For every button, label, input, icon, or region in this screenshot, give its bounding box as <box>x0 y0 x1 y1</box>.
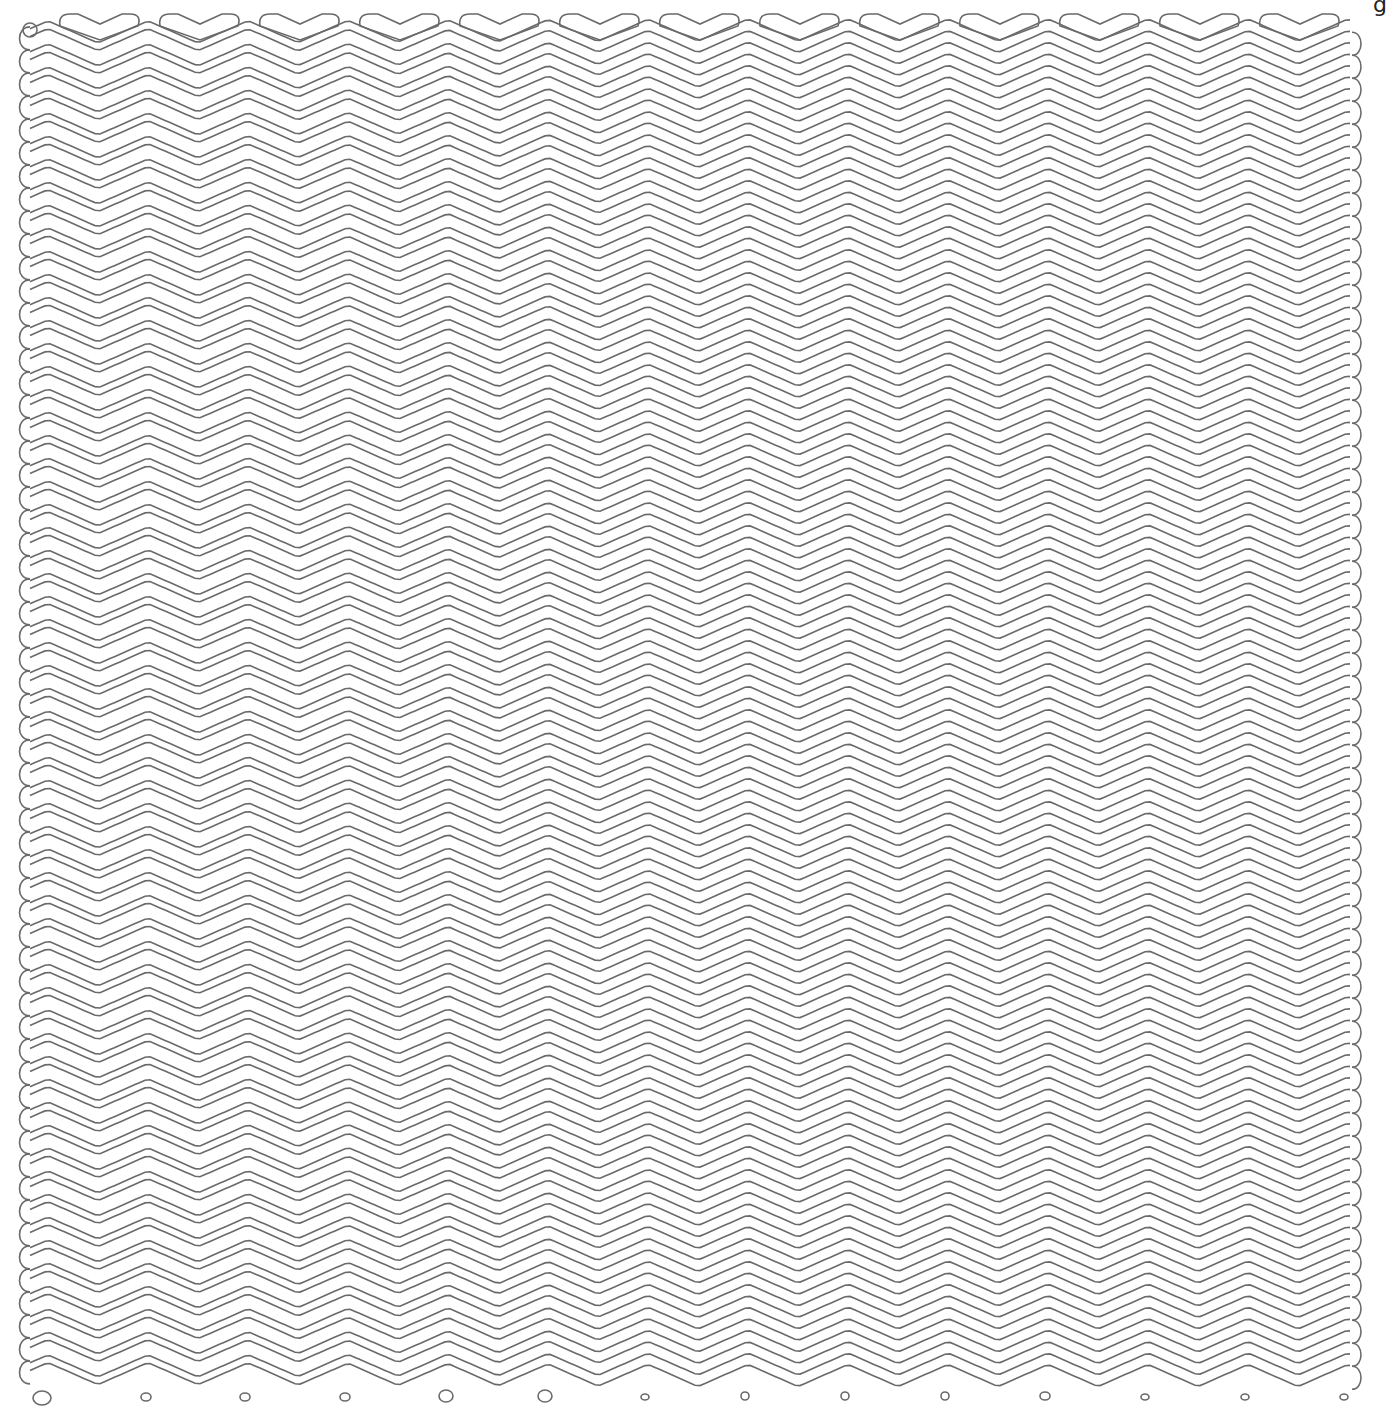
top-chevron <box>960 14 1039 40</box>
right-loop <box>1352 975 1361 998</box>
right-loop <box>1352 78 1361 101</box>
left-loop <box>20 648 31 671</box>
zigzag-line <box>30 835 1350 857</box>
zigzag-line <box>30 940 1350 962</box>
left-loop <box>20 1085 31 1108</box>
zigzag-line <box>30 605 1350 627</box>
zigzag-line <box>30 319 1350 341</box>
zigzag-line <box>30 168 1350 190</box>
right-loop <box>1352 768 1361 791</box>
left-loop <box>20 1177 31 1200</box>
left-loop <box>20 487 31 510</box>
zigzag-line <box>30 1226 1350 1248</box>
left-loop <box>20 280 31 303</box>
right-loop <box>1352 124 1361 147</box>
right-loop <box>1352 377 1361 400</box>
zigzag-line <box>30 1157 1350 1179</box>
zigzag-line <box>30 1249 1350 1271</box>
left-loop <box>20 970 31 993</box>
right-loop <box>1352 469 1361 492</box>
right-loop <box>1352 308 1361 331</box>
zigzag-line <box>30 99 1350 121</box>
left-loop <box>20 73 31 96</box>
right-loop <box>1352 538 1361 561</box>
right-loop <box>1352 101 1361 124</box>
right-loop <box>1352 1159 1361 1182</box>
left-loop <box>20 234 31 257</box>
right-loop <box>1352 676 1361 699</box>
left-loop <box>20 165 31 188</box>
right-loop <box>1352 492 1361 515</box>
zigzag-line <box>30 1262 1350 1284</box>
zigzag-line <box>30 122 1350 144</box>
zigzag-line <box>30 214 1350 236</box>
zigzag-line <box>30 513 1350 535</box>
zigzag-line <box>30 1364 1350 1386</box>
right-loop <box>1352 952 1361 975</box>
zigzag-line <box>30 434 1350 456</box>
right-loop <box>1352 331 1361 354</box>
left-loop <box>20 1338 31 1361</box>
bottom-circle <box>741 1392 749 1400</box>
zigzag-line <box>30 1042 1350 1064</box>
zigzag-line <box>30 582 1350 604</box>
right-loop <box>1352 1021 1361 1044</box>
zigzag-line <box>30 1341 1350 1363</box>
zigzag-line <box>30 595 1350 617</box>
right-loop <box>1352 1251 1361 1274</box>
zigzag-line <box>30 1203 1350 1225</box>
top-chevron <box>460 14 539 40</box>
right-loop <box>1352 745 1361 768</box>
zigzag-line <box>30 30 1350 52</box>
zigzag-line <box>30 283 1350 305</box>
bottom-circle <box>1040 1392 1050 1400</box>
left-loop <box>20 1108 31 1131</box>
top-chevron <box>160 14 239 40</box>
zigzag-line <box>30 145 1350 167</box>
left-loop <box>20 855 31 878</box>
zigzag-line <box>30 375 1350 397</box>
right-loop <box>1352 1297 1361 1320</box>
zigzag-line <box>30 549 1350 571</box>
zigzag-line <box>30 1239 1350 1261</box>
zigzag-line <box>30 802 1350 824</box>
top-chevron <box>1260 14 1339 40</box>
zigzag-line <box>30 986 1350 1008</box>
zigzag-line <box>30 89 1350 111</box>
right-loop <box>1352 837 1361 860</box>
zigzag-line <box>30 871 1350 893</box>
zigzag-line <box>30 1285 1350 1307</box>
zigzag-line <box>30 641 1350 663</box>
right-loop <box>1352 630 1361 653</box>
left-loop <box>20 809 31 832</box>
zigzag-line <box>30 1272 1350 1294</box>
left-loop <box>20 211 31 234</box>
zigzag-line <box>30 306 1350 328</box>
zigzag-lines <box>20 20 1362 1389</box>
zigzag-line <box>30 572 1350 594</box>
left-loop <box>20 924 31 947</box>
zigzag-line <box>30 710 1350 732</box>
zigzag-line <box>30 1147 1350 1169</box>
zigzag-line <box>30 1111 1350 1133</box>
left-loop <box>20 349 31 372</box>
zigzag-line <box>30 1318 1350 1340</box>
zigzag-line <box>30 1170 1350 1192</box>
zigzag-line <box>30 628 1350 650</box>
zigzag-line <box>30 973 1350 995</box>
zigzag-line <box>30 651 1350 673</box>
left-loop <box>20 602 31 625</box>
left-loop <box>20 372 31 395</box>
left-loop <box>20 1062 31 1085</box>
left-loop <box>20 556 31 579</box>
right-loop <box>1352 699 1361 722</box>
left-loop <box>20 188 31 211</box>
top-chevron <box>260 14 339 40</box>
left-loop <box>20 326 31 349</box>
zigzag-line <box>30 858 1350 880</box>
right-loop <box>1352 1366 1361 1389</box>
zigzag-line <box>30 480 1350 502</box>
zigzag-line <box>30 733 1350 755</box>
left-loop <box>20 671 31 694</box>
left-loop <box>20 1131 31 1154</box>
